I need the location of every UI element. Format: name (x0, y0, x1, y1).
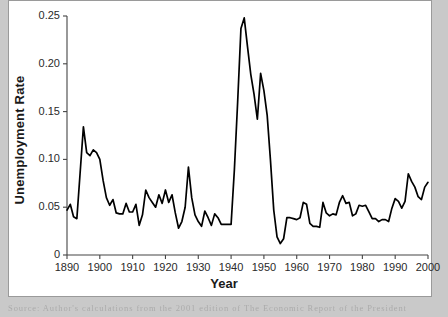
y-tick-label: 0.15 (20, 105, 60, 117)
y-tick-label: 0.10 (20, 152, 60, 164)
y-axis-label-wrap: Unemployment Rate (6, 60, 32, 220)
figure-root: Unemployment Rate Year 00.050.100.150.20… (0, 0, 448, 317)
source-caption: Source: Author's calculations from the 2… (8, 303, 440, 317)
y-axis-label: Unemployment Rate (12, 75, 27, 204)
y-axis-ticks (63, 16, 67, 255)
x-tick-label: 2000 (406, 261, 448, 273)
y-tick-label: 0.05 (20, 200, 60, 212)
y-tick-label: 0.20 (20, 57, 60, 69)
x-axis-ticks (67, 255, 428, 259)
unemployment-rate-series-line (67, 18, 428, 244)
y-tick-label: 0 (20, 248, 60, 260)
x-axis-label: Year (0, 276, 448, 291)
y-tick-label: 0.25 (20, 9, 60, 21)
